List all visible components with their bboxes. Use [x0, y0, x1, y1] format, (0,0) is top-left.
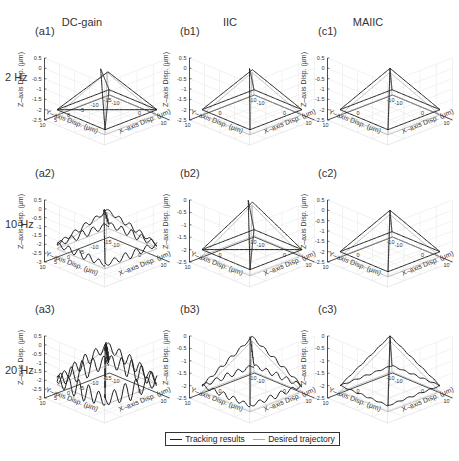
svg-text:-2: -2 — [37, 377, 42, 383]
desired-swatch — [253, 439, 265, 440]
svg-text:-10: -10 — [387, 375, 395, 381]
svg-text:10: 10 — [184, 122, 190, 128]
svg-text:0: 0 — [183, 333, 186, 339]
svg-text:Z–axis Disp. (μm): Z–axis Disp. (μm) — [17, 52, 25, 107]
svg-text:-1.5: -1.5 — [177, 234, 186, 240]
svg-text:-0.5: -0.5 — [177, 209, 186, 215]
svg-text:-1.5: -1.5 — [315, 96, 324, 102]
svg-text:-0.5: -0.5 — [32, 351, 41, 357]
legend: Tracking results Desired trajectory — [165, 432, 340, 446]
tracking-swatch — [170, 439, 182, 440]
svg-text:-1: -1 — [37, 86, 42, 92]
svg-text:0: 0 — [283, 110, 286, 116]
svg-text:-2: -2 — [182, 383, 187, 389]
subplot-b1: (b1)0.50-0.5-1-1.5-2-2.5100-10-10010Z–ax… — [180, 25, 330, 165]
legend-item-desired: Desired trajectory — [253, 434, 335, 444]
svg-text:-2: -2 — [320, 249, 325, 255]
svg-text:-10: -10 — [112, 378, 120, 384]
plot-3d: 0-0.5-1-1.5-2-2.5100-10-10010Z–axis Disp… — [180, 167, 330, 307]
svg-text:-1.5: -1.5 — [32, 368, 41, 374]
svg-text:10: 10 — [322, 264, 328, 270]
svg-text:10: 10 — [160, 262, 166, 268]
svg-text:0: 0 — [421, 252, 424, 258]
svg-text:-10: -10 — [257, 242, 265, 248]
svg-text:0.5: 0.5 — [34, 333, 42, 339]
subplot-b3: (b3)0-0.5-1-1.5-2-2.5100-10-10010Z–axis … — [180, 303, 330, 443]
svg-text:10: 10 — [305, 120, 311, 126]
svg-text:-2: -2 — [37, 107, 42, 113]
svg-text:10: 10 — [322, 122, 328, 128]
svg-text:0: 0 — [356, 252, 359, 258]
svg-text:-10: -10 — [112, 100, 120, 106]
svg-text:0: 0 — [183, 197, 186, 203]
svg-text:-10: -10 — [257, 378, 265, 384]
svg-text:0: 0 — [218, 110, 221, 116]
svg-text:Z–axis Disp. (μm): Z–axis Disp. (μm) — [300, 52, 308, 107]
legend-tracking-label: Tracking results — [185, 434, 245, 444]
svg-text:-2: -2 — [182, 247, 187, 253]
svg-text:-2: -2 — [37, 241, 42, 247]
svg-text:-10: -10 — [91, 102, 99, 108]
svg-text:-0.5: -0.5 — [315, 76, 324, 82]
legend-item-tracking: Tracking results — [170, 434, 245, 444]
svg-text:0: 0 — [183, 65, 186, 71]
svg-text:10: 10 — [322, 400, 328, 406]
subplot-c1: (c1)0.50-0.5-1-1.5-2-2.5100-10-10010Z–ax… — [318, 25, 459, 165]
plot-3d: 0-0.5-1-1.5-2-2.5100-10-10010Z–axis Disp… — [180, 303, 330, 443]
svg-text:-1: -1 — [320, 228, 325, 234]
svg-text:0: 0 — [421, 110, 424, 116]
subplot-c3: (c3)0-0.5-1-1.5-2-2.5100-10-10010Z–axis … — [318, 303, 459, 443]
svg-text:-0.5: -0.5 — [315, 345, 324, 351]
svg-text:-10: -10 — [395, 378, 403, 384]
svg-text:-2: -2 — [182, 107, 187, 113]
svg-text:-1: -1 — [37, 360, 42, 366]
svg-text:0: 0 — [356, 110, 359, 116]
svg-text:Z–axis Disp. (μm): Z–axis Disp. (μm) — [162, 194, 170, 249]
svg-text:0: 0 — [218, 388, 221, 394]
svg-text:-1: -1 — [320, 86, 325, 92]
svg-text:0: 0 — [38, 65, 41, 71]
svg-text:0: 0 — [321, 207, 324, 213]
svg-text:-1: -1 — [182, 358, 187, 364]
svg-text:-1.5: -1.5 — [177, 370, 186, 376]
svg-text:Z–axis Disp. (μm): Z–axis Disp. (μm) — [300, 194, 308, 249]
svg-text:0: 0 — [38, 206, 41, 212]
svg-text:-0.5: -0.5 — [315, 218, 324, 224]
svg-text:-10: -10 — [387, 97, 395, 103]
svg-text:-1.5: -1.5 — [32, 232, 41, 238]
subplot-b2: (b2)0-0.5-1-1.5-2-2.5100-10-10010Z–axis … — [180, 167, 330, 307]
svg-text:Z–axis Disp. (μm): Z–axis Disp. (μm) — [162, 52, 170, 107]
svg-text:-1.5: -1.5 — [32, 96, 41, 102]
svg-text:-1.5: -1.5 — [177, 96, 186, 102]
svg-text:10: 10 — [160, 398, 166, 404]
legend-desired-label: Desired trajectory — [268, 434, 335, 444]
svg-text:-0.5: -0.5 — [32, 215, 41, 221]
svg-text:-1: -1 — [182, 86, 187, 92]
svg-text:-1: -1 — [37, 224, 42, 230]
svg-text:0: 0 — [356, 388, 359, 394]
svg-text:10: 10 — [443, 262, 449, 268]
svg-text:10: 10 — [443, 398, 449, 404]
svg-text:Z–axis Disp. (μm): Z–axis Disp. (μm) — [162, 330, 170, 385]
plot-3d: 0.50-0.5-1-1.5-2-2.5100-10-10010Z–axis D… — [180, 25, 330, 165]
svg-text:-2.5: -2.5 — [32, 250, 41, 256]
svg-text:-10: -10 — [257, 100, 265, 106]
svg-text:-10: -10 — [91, 380, 99, 386]
svg-text:10: 10 — [39, 264, 45, 270]
svg-text:-10: -10 — [112, 242, 120, 248]
svg-text:Z–axis Disp. (μm): Z–axis Disp. (μm) — [17, 194, 25, 249]
svg-text:-10: -10 — [395, 242, 403, 248]
svg-text:-10: -10 — [387, 239, 395, 245]
svg-text:0.5: 0.5 — [179, 55, 187, 61]
svg-text:-10: -10 — [395, 100, 403, 106]
svg-text:0: 0 — [138, 110, 141, 116]
svg-text:-2.5: -2.5 — [32, 386, 41, 392]
svg-text:Z–axis Disp. (μm): Z–axis Disp. (μm) — [300, 330, 308, 385]
svg-text:10: 10 — [160, 120, 166, 126]
svg-text:-10: -10 — [91, 244, 99, 250]
plot-3d: 0-0.5-1-1.5-2-2.5100-10-10010Z–axis Disp… — [318, 303, 459, 443]
svg-text:-2: -2 — [320, 107, 325, 113]
svg-text:0.5: 0.5 — [34, 197, 42, 203]
svg-text:10: 10 — [184, 264, 190, 270]
plot-3d: 0.50-0.5-1-1.5-2-2.5100-10-10010Z–axis D… — [318, 25, 459, 165]
